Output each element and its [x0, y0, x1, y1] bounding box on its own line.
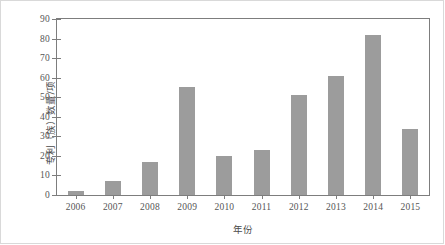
- x-axis-tick-label: 2015: [400, 202, 420, 212]
- bar: [216, 156, 232, 195]
- x-axis-tick: [262, 195, 263, 199]
- bar: [402, 129, 418, 195]
- bar: [365, 35, 381, 195]
- x-axis-tick: [113, 195, 114, 199]
- bar: [328, 76, 344, 195]
- x-axis-tick: [373, 195, 374, 199]
- y-axis-tick-label: 30: [40, 131, 50, 141]
- y-axis-tick-inner: [57, 175, 61, 176]
- bar: [105, 181, 121, 195]
- y-axis-tick-inner: [57, 58, 61, 59]
- bar: [68, 191, 84, 195]
- bar: [179, 87, 195, 195]
- y-axis-tick-label: 80: [40, 34, 50, 44]
- x-axis-tick-label: 2010: [214, 202, 234, 212]
- y-axis-tick-label: 60: [40, 73, 50, 83]
- bar: [254, 150, 270, 195]
- x-axis-tick-label: 2012: [289, 202, 309, 212]
- x-axis-tick: [299, 195, 300, 199]
- y-axis-tick-label: 70: [40, 53, 50, 63]
- bar: [142, 162, 158, 195]
- y-axis-tick-inner: [57, 97, 61, 98]
- y-axis-tick-label: 90: [40, 14, 50, 24]
- y-axis-tick-inner: [57, 19, 61, 20]
- x-axis-tick-label: 2011: [252, 202, 271, 212]
- bar: [291, 95, 307, 195]
- y-axis-tick-label: 50: [40, 92, 50, 102]
- x-axis-tick-label: 2006: [66, 202, 86, 212]
- plot-area: 0102030405060708090 20062007200820092010…: [56, 18, 430, 196]
- x-axis-tick: [187, 195, 188, 199]
- x-axis-tick: [410, 195, 411, 199]
- y-axis-tick-inner: [57, 195, 61, 196]
- x-axis-tick-label: 2014: [363, 202, 383, 212]
- y-axis-tick-inner: [57, 78, 61, 79]
- y-axis-tick-inner: [57, 136, 61, 137]
- x-axis-tick: [76, 195, 77, 199]
- y-axis-tick-label: 20: [40, 151, 50, 161]
- x-axis-tick-label: 2007: [103, 202, 123, 212]
- y-axis-tick-inner: [57, 156, 61, 157]
- x-axis-tick: [224, 195, 225, 199]
- x-axis-tick-label: 2009: [177, 202, 197, 212]
- y-axis-tick-inner: [57, 39, 61, 40]
- x-axis-tick: [336, 195, 337, 199]
- y-axis-tick-label: 0: [45, 190, 50, 200]
- x-axis-title: 年份: [56, 222, 430, 236]
- y-axis-tick-label: 40: [40, 112, 50, 122]
- bar-chart-figure: 专利（族）数量/项 0102030405060708090 2006200720…: [0, 0, 445, 245]
- y-axis-tick-label: 10: [40, 170, 50, 180]
- x-axis-tick: [150, 195, 151, 199]
- x-axis-tick-label: 2008: [140, 202, 160, 212]
- x-axis-tick-label: 2013: [326, 202, 346, 212]
- y-axis-tick-inner: [57, 117, 61, 118]
